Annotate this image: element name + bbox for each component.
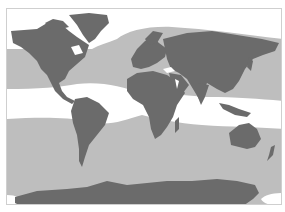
map-canvas xyxy=(7,9,282,205)
world-map xyxy=(6,8,282,205)
